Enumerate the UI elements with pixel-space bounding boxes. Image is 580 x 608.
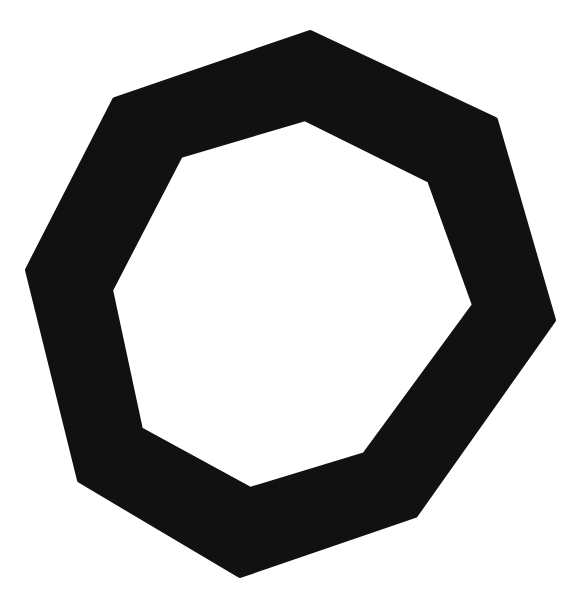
octagon-ring [28,33,553,575]
octagon-ring-icon [0,0,580,608]
canvas [0,0,580,608]
